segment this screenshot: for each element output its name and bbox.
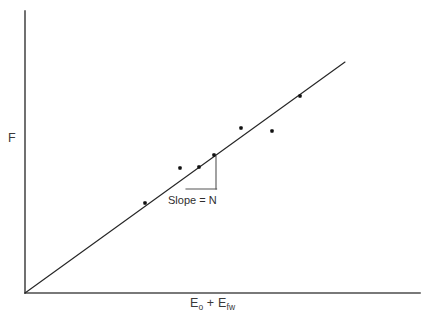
x-axis-label-symbol-2: E [218,296,227,310]
data-point [178,166,181,169]
x-axis-label: Eo + Efw [0,296,425,310]
data-point [143,201,146,204]
x-axis-label-subscript-2: fw [227,302,236,312]
data-point [298,94,301,97]
data-point [239,126,242,129]
plot-canvas [0,0,425,324]
data-point [270,129,273,132]
y-axis-label: F [8,131,16,145]
fit-line-group [25,62,345,293]
data-point [197,165,200,168]
data-point [212,153,215,156]
trend-line [25,62,345,293]
figure-root: F Eo + Efw Slope = N [0,0,425,324]
x-axis-label-operator: + [203,296,218,310]
slope-annotation-label: Slope = N [168,194,217,206]
x-axis-label-subscript-1: o [198,302,203,312]
slope-triangle-group [186,156,217,189]
